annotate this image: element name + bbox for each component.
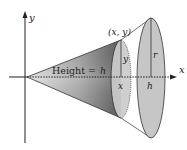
base-radius-label: r bbox=[153, 50, 158, 60]
cross-section-disk bbox=[111, 40, 131, 118]
y-axis-arrow-icon bbox=[23, 11, 28, 18]
base-disk bbox=[137, 18, 165, 138]
cone-solid bbox=[27, 40, 121, 118]
height-label-prefix: Height = bbox=[52, 65, 96, 76]
height-label-var: h bbox=[100, 65, 106, 76]
diagram-canvas: y x (x, y) Height = h y x r h bbox=[0, 0, 187, 150]
point-label: (x, y) bbox=[108, 27, 131, 37]
cross-section-position-label: x bbox=[118, 81, 123, 91]
base-position-label: h bbox=[147, 81, 153, 91]
cross-section-radius-label: y bbox=[122, 54, 129, 64]
x-axis-label: x bbox=[179, 64, 185, 75]
cone-volume-diagram: y x (x, y) Height = h y x r h bbox=[0, 0, 187, 150]
y-axis-label: y bbox=[28, 12, 35, 23]
x-axis-arrow-icon bbox=[170, 75, 177, 80]
